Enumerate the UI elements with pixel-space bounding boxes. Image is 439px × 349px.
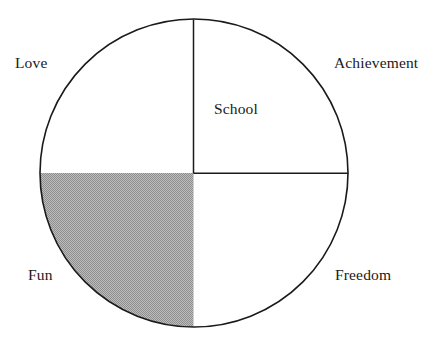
quadrant-label-fun: Fun bbox=[28, 267, 53, 283]
quadrant-label-love: Love bbox=[15, 55, 47, 71]
figure-root: Love Achievement School Fun Freedom bbox=[0, 0, 439, 349]
quadrant-label-achievement: Achievement bbox=[334, 55, 418, 71]
circle-quadrant-diagram bbox=[0, 0, 439, 349]
shaded-quadrant-fun bbox=[39, 173, 194, 328]
center-label-school: School bbox=[214, 101, 258, 117]
quadrant-label-freedom: Freedom bbox=[335, 267, 391, 283]
